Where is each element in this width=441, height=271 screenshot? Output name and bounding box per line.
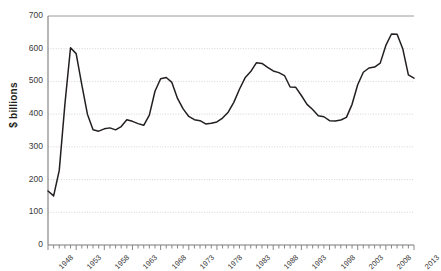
data-series-line	[48, 34, 414, 196]
x-axis-tick-label: 2013	[423, 253, 441, 271]
x-axis-ticks	[48, 245, 414, 250]
gridlines	[48, 16, 414, 212]
